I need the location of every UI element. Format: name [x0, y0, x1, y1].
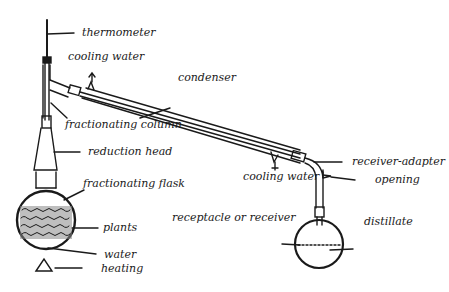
label-cooling-water-top: cooling water	[68, 51, 144, 63]
label-receiver-adapter: receiver-adapter	[352, 156, 445, 168]
reduction-head-icon	[34, 128, 80, 188]
label-thermometer: thermometer	[82, 27, 155, 39]
label-fractionating-flask: fractionating flask	[83, 178, 185, 190]
label-receptacle: receptacle or receiver	[172, 212, 295, 224]
label-opening: opening	[375, 174, 420, 186]
plants-icon	[20, 206, 72, 239]
label-cooling-water-bottom: cooling water	[243, 171, 319, 183]
apparatus-drawing	[0, 0, 449, 292]
receptacle-flask-icon	[282, 220, 353, 268]
label-condenser: condenser	[178, 72, 236, 84]
distillation-diagram: thermometer cooling water condenser frac…	[0, 0, 449, 292]
fractionating-column-icon	[42, 65, 67, 128]
label-water: water	[104, 249, 136, 261]
thermometer-icon	[43, 20, 74, 120]
label-fractionating-column: fractionating column	[65, 119, 182, 131]
label-heating: heating	[101, 263, 143, 275]
label-reduction-head: reduction head	[88, 146, 172, 158]
label-plants: plants	[103, 222, 137, 234]
label-distillate: distillate	[364, 216, 413, 228]
heating-icon	[36, 259, 82, 271]
